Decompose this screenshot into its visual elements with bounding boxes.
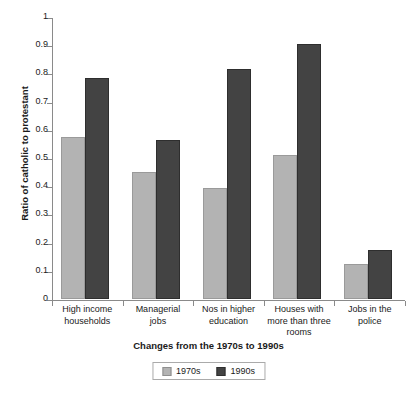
y-tick-label: 0.3 xyxy=(35,208,48,218)
category-label-line: Nos in higher xyxy=(193,304,264,316)
y-tick-label: 0.6 xyxy=(35,124,48,134)
legend-swatch-icon xyxy=(162,367,171,376)
category-label-line: Houses with xyxy=(264,304,335,316)
category-label-1: High incomehouseholds xyxy=(52,304,123,327)
y-tick-label: 0.4 xyxy=(35,180,48,190)
bar-chart: Ratio of catholic to protestant 00.10.20… xyxy=(0,0,417,395)
category-label-3: Nos in highereducation xyxy=(193,304,264,327)
category-label-line: Managerial xyxy=(123,304,194,316)
bar-1990s-3 xyxy=(227,69,251,299)
category-label-line: households xyxy=(52,316,123,328)
plot-area: 00.10.20.30.40.50.60.70.80.91 xyxy=(52,18,405,300)
y-tick-label: 0.1 xyxy=(35,265,48,275)
y-tick-label: 0.2 xyxy=(35,237,48,247)
bar-1970s-2 xyxy=(132,172,156,299)
bar-1970s-1 xyxy=(61,137,85,299)
category-label-5: Jobs in thepolice xyxy=(334,304,405,327)
category-label-line: police xyxy=(334,316,405,328)
legend-item-1990s[interactable]: 1990s xyxy=(217,366,256,376)
legend-item-1970s[interactable]: 1970s xyxy=(162,366,201,376)
bar-1970s-3 xyxy=(203,188,227,299)
x-axis-line xyxy=(52,300,405,301)
x-tick-mark xyxy=(405,301,406,306)
bar-1990s-4 xyxy=(297,44,321,299)
y-tick-label: 1 xyxy=(43,11,48,21)
y-tick-label: 0.9 xyxy=(35,39,48,49)
legend-swatch-icon xyxy=(217,367,226,376)
y-tick-label: 0 xyxy=(43,293,48,303)
bar-1990s-5 xyxy=(368,250,392,299)
category-label-2: Managerialjobs xyxy=(123,304,194,327)
y-axis-line xyxy=(52,18,53,301)
y-axis-title: Ratio of catholic to protestant xyxy=(19,54,30,254)
category-label-line: High income xyxy=(52,304,123,316)
legend: 1970s1990s xyxy=(152,362,265,380)
bar-1970s-4 xyxy=(273,155,297,299)
category-label-line: Jobs in the xyxy=(334,304,405,316)
legend-label: 1970s xyxy=(176,366,201,376)
category-label-line: rooms xyxy=(264,327,335,339)
legend-label: 1990s xyxy=(231,366,256,376)
y-tick-label: 0.8 xyxy=(35,67,48,77)
y-tick-label: 0.7 xyxy=(35,96,48,106)
x-axis-title: Changes from the 1970s to 1990s xyxy=(0,340,417,351)
category-label-4: Houses withmore than threerooms xyxy=(264,304,335,339)
category-label-line: jobs xyxy=(123,316,194,328)
bar-1990s-2 xyxy=(156,140,180,299)
category-label-line: more than three xyxy=(264,316,335,328)
category-label-line: education xyxy=(193,316,264,328)
bar-1970s-5 xyxy=(344,264,368,299)
y-tick-label: 0.5 xyxy=(35,152,48,162)
bar-1990s-1 xyxy=(85,78,109,299)
